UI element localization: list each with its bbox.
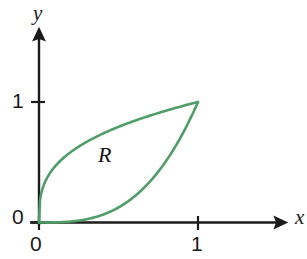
figure-container: y x 1 0 0 1 R	[0, 0, 307, 259]
y-axis-label: y	[33, 3, 42, 24]
region-label-R: R	[98, 144, 111, 166]
x-tick-label-1: 1	[191, 233, 203, 254]
y-tick-label-1: 1	[12, 90, 24, 111]
lower-boundary-curve	[39, 102, 198, 223]
x-axis-label: x	[295, 207, 304, 228]
upper-boundary-curve	[39, 102, 198, 223]
y-tick-label-0: 0	[12, 206, 24, 227]
plot-svg	[0, 0, 307, 259]
x-tick-label-0: 0	[30, 233, 42, 254]
